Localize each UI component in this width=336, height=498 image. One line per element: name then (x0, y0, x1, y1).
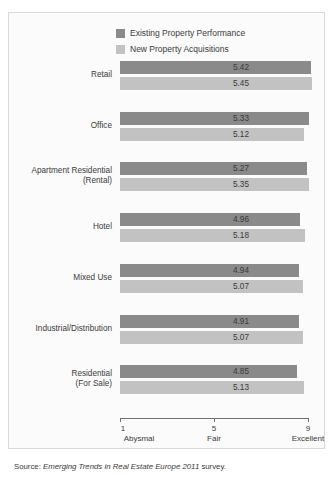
category-label-line1: Hotel (93, 222, 112, 231)
chart-page: Existing Property PerformanceNew Propert… (0, 0, 336, 498)
legend-item: Existing Property Performance (116, 27, 245, 40)
category-label-line1: Office (91, 121, 112, 130)
axis-tick-caption: Abysmal (124, 434, 155, 443)
x-axis: 1Abysmal5Fair9Excellent (120, 418, 320, 458)
category-label-line2: (For Sale) (9, 379, 112, 389)
plot-area: Retail5.425.45Office5.335.12Apartment Re… (9, 61, 326, 416)
category-label: Retail (9, 70, 112, 80)
chart-group: Hotel4.965.18 (9, 213, 326, 250)
bar-value-label: 5.13 (233, 382, 249, 393)
bar-value-label: 5.07 (233, 332, 249, 343)
bar-value-label: 5.07 (233, 281, 249, 292)
bar (120, 264, 299, 277)
category-label-line1: Retail (91, 70, 112, 79)
axis-tick (214, 418, 215, 422)
bar (120, 229, 305, 242)
bar-value-label: 5.35 (233, 179, 249, 190)
bar-group: 4.855.13 (120, 365, 326, 402)
axis-tick (308, 418, 309, 422)
chart-group: Mixed Use4.945.07 (9, 264, 326, 301)
legend-item: New Property Acquisitions (116, 43, 245, 56)
bar-group: 4.945.07 (120, 264, 326, 301)
bar-value-label: 5.42 (233, 62, 249, 73)
bar (120, 77, 312, 90)
bar-group: 4.915.07 (120, 315, 326, 352)
bar (120, 331, 303, 344)
legend-new-swatch-icon (116, 45, 125, 54)
category-label: Hotel (9, 222, 112, 232)
axis-tick-caption: Excellent (292, 434, 324, 443)
legend-existing-swatch-icon (116, 29, 125, 38)
chart-group: Apartment Residential(Rental)5.275.35 (9, 162, 326, 199)
bar-value-label: 4.85 (233, 366, 249, 377)
bar (120, 128, 304, 141)
source-title: Emerging Trends in Real Estate Europe 20… (43, 462, 199, 471)
bar-value-label: 5.12 (233, 129, 249, 140)
chart-group: Office5.335.12 (9, 112, 326, 149)
bar-value-label: 4.96 (233, 214, 249, 225)
bar-value-label: 5.27 (233, 163, 249, 174)
category-label: Mixed Use (9, 273, 112, 283)
bar (120, 213, 300, 226)
category-label-line1: Residential (71, 369, 112, 378)
bar-group: 5.425.45 (120, 61, 326, 98)
category-label-line2: (Rental) (9, 176, 112, 186)
axis-tick (120, 418, 121, 422)
category-label-line1: Mixed Use (73, 273, 112, 282)
bar-value-label: 5.33 (233, 113, 249, 124)
axis-tick-caption: Fair (207, 434, 221, 443)
category-label-line1: Apartment Residential (31, 166, 112, 175)
axis-tick-value: 1 (121, 424, 125, 433)
category-label: Apartment Residential(Rental) (9, 166, 112, 186)
axis-tick-value: 5 (212, 424, 216, 433)
source-suffix: survey. (199, 462, 226, 471)
bar (120, 112, 309, 125)
bar (120, 365, 297, 378)
chart-panel: Existing Property PerformanceNew Propert… (8, 12, 325, 449)
legend-item-label: Existing Property Performance (130, 29, 245, 38)
bar-value-label: 4.94 (233, 265, 249, 276)
chart-group: Residential(For Sale)4.855.13 (9, 365, 326, 402)
bar-value-label: 5.45 (233, 78, 249, 89)
axis-tick-value: 9 (306, 424, 310, 433)
bar-group: 4.965.18 (120, 213, 326, 250)
bar (120, 162, 307, 175)
bar (120, 315, 299, 328)
source-prefix: Source: (14, 462, 43, 471)
bar (120, 381, 304, 394)
category-label: Residential(For Sale) (9, 369, 112, 389)
bar (120, 61, 311, 74)
bar (120, 280, 303, 293)
source-note: Source: Emerging Trends in Real Estate E… (14, 462, 226, 472)
chart-group: Industrial/Distribution4.915.07 (9, 315, 326, 352)
category-label: Industrial/Distribution (9, 324, 112, 334)
chart-legend: Existing Property PerformanceNew Propert… (116, 27, 245, 59)
category-label: Office (9, 121, 112, 131)
bar (120, 178, 309, 191)
category-label-line1: Industrial/Distribution (36, 324, 112, 333)
bar-value-label: 5.18 (233, 230, 249, 241)
bar-value-label: 4.91 (233, 316, 249, 327)
chart-group: Retail5.425.45 (9, 61, 326, 98)
bar-group: 5.275.35 (120, 162, 326, 199)
bar-group: 5.335.12 (120, 112, 326, 149)
legend-item-label: New Property Acquisitions (130, 45, 229, 54)
